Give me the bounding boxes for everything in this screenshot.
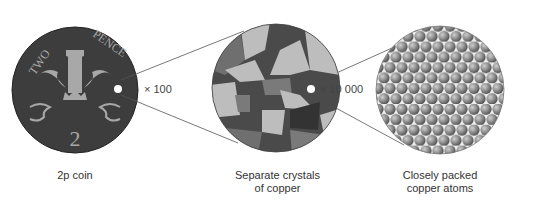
crystals-caption-line2: of copper	[225, 182, 330, 195]
coin-caption: 2p coin	[30, 169, 120, 182]
atoms-caption-line1: Closely packed	[390, 169, 490, 182]
atoms-caption-line2: copper atoms	[390, 182, 490, 195]
atoms-illustration	[374, 24, 506, 156]
svg-text:2: 2	[70, 126, 81, 151]
coin-illustration: 2 TWO PENCE	[12, 27, 138, 153]
magnification-10000: × 10 000	[320, 83, 363, 95]
crystals-caption-line1: Separate crystals	[225, 169, 330, 182]
magnification-100: × 100	[144, 83, 172, 95]
atoms-caption: Closely packed copper atoms	[390, 169, 490, 195]
crystals-caption: Separate crystals of copper	[225, 169, 330, 195]
diagram: 2 TWO PENCE × 100 × 10 000 2p coin Se	[0, 0, 535, 202]
